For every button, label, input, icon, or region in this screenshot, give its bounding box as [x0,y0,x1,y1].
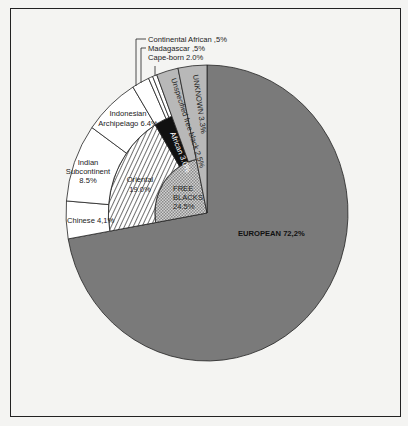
label-madagascar: Madagascar ,5% [148,44,205,53]
label-chinese: Chinese 4,1% [67,216,115,225]
label-continental-african: Continental African ,5% [148,35,227,44]
label-oriental: Oriental19.0% [127,175,154,194]
label-european: EUROPEAN 72,2% [238,229,305,238]
label-cape-born: Cape-born 2.0% [148,53,204,62]
pie-chart: EUROPEAN 72,2% UNKNOWN 3.3% Unspecified … [0,0,408,426]
